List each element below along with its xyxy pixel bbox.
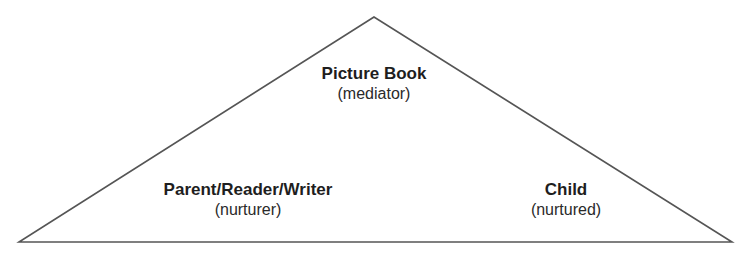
node-role: (nurtured): [531, 200, 601, 220]
node-title: Picture Book: [322, 64, 427, 84]
node-title: Child: [531, 180, 601, 200]
node-picture-book: Picture Book (mediator): [322, 64, 427, 104]
triangle-diagram: [0, 0, 751, 260]
node-title: Parent/Reader/Writer: [164, 180, 333, 200]
node-role: (nurturer): [164, 200, 333, 220]
triangle-outline: [19, 17, 732, 242]
node-role: (mediator): [322, 84, 427, 104]
node-parent-reader-writer: Parent/Reader/Writer (nurturer): [164, 180, 333, 220]
node-child: Child (nurtured): [531, 180, 601, 220]
